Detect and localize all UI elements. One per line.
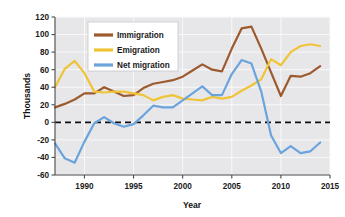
x-tick-label: 2010 bbox=[272, 182, 291, 191]
y-tick-label: 100 bbox=[35, 30, 49, 39]
x-tick-label: 1990 bbox=[75, 182, 94, 191]
y-tick-label: 60 bbox=[40, 66, 50, 75]
y-tick-label: 40 bbox=[40, 83, 50, 92]
legend-label: Net migration bbox=[117, 61, 170, 70]
y-axis-title: Thousands bbox=[22, 73, 32, 119]
migration-line-chart: 120100806040200-20-40-60 199019952000200… bbox=[0, 0, 345, 217]
y-tick-label: 120 bbox=[35, 13, 49, 22]
legend-label: Immigration bbox=[117, 31, 164, 40]
legend-label: Emigration bbox=[117, 46, 160, 55]
y-tick-label: 80 bbox=[40, 48, 50, 57]
y-tick-label: 0 bbox=[44, 118, 49, 127]
x-tick-label: 2005 bbox=[223, 182, 242, 191]
chart-svg: 120100806040200-20-40-60 199019952000200… bbox=[0, 0, 345, 217]
y-tick-label: -20 bbox=[37, 136, 49, 145]
x-tick-label: 2000 bbox=[174, 182, 193, 191]
x-tick-label: 1995 bbox=[124, 182, 143, 191]
x-axis-title: Year bbox=[183, 200, 202, 210]
y-tick-label: -60 bbox=[37, 171, 49, 180]
y-tick-label: -40 bbox=[37, 153, 49, 162]
y-tick-label: 20 bbox=[40, 101, 50, 110]
chart-legend: ImmigrationEmigrationNet migration bbox=[88, 22, 178, 71]
x-tick-label: 2015 bbox=[321, 182, 340, 191]
